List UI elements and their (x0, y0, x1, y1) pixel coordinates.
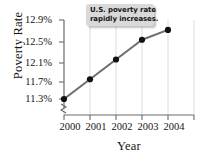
data-point-2002 (113, 56, 119, 62)
callout-annotation: U.S. poverty rate rapidly increases. (86, 4, 154, 26)
poverty-rate-line-chart: 12.9% 12.5% 12.1% 11.7% 11.3% 2000 2001 … (0, 0, 203, 161)
y-axis-ticks (59, 20, 64, 99)
vertical-gridlines (64, 20, 194, 115)
xtick-label-2004: 2004 (154, 121, 194, 132)
callout-line-1: U.S. poverty rate (90, 6, 151, 15)
ytick-label-0: 12.9% (0, 14, 52, 25)
x-axis-title: Year (55, 139, 203, 154)
ytick-label-2: 12.1% (0, 57, 52, 68)
data-point-2000 (61, 96, 67, 102)
ytick-label-1: 12.5% (0, 36, 52, 47)
y-axis-title: Poverty Rate (11, 4, 26, 88)
callout-line-2: rapidly increases. (90, 15, 151, 24)
data-point-2001 (87, 76, 93, 82)
data-point-2004 (165, 27, 171, 33)
ytick-label-4: 11.3% (0, 93, 52, 104)
data-point-2003 (139, 37, 145, 43)
x-axis-ticks (64, 115, 194, 120)
y-axis-break-icon (61, 104, 66, 113)
ytick-label-3: 11.7% (0, 76, 52, 87)
